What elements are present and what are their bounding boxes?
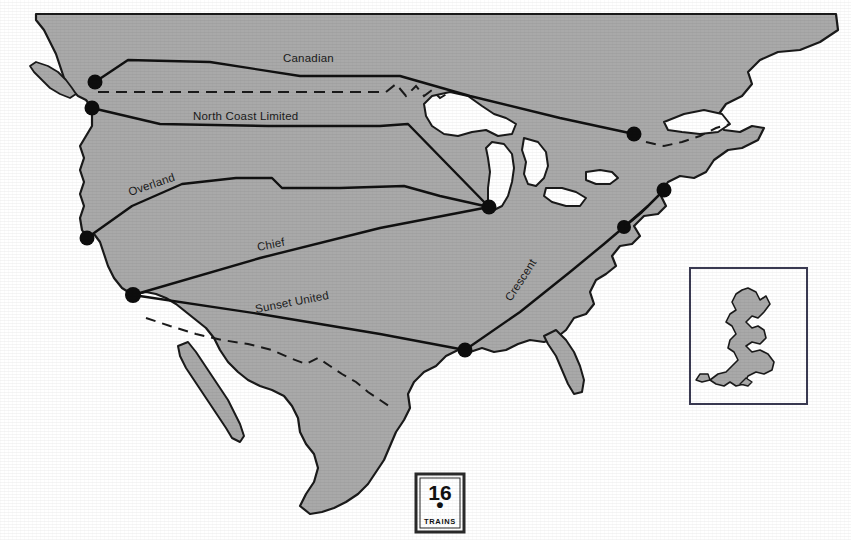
city-dot-washington[interactable]	[617, 220, 631, 234]
route-label-north-coast-limited: North Coast Limited	[193, 110, 298, 122]
city-dot-montreal[interactable]	[627, 127, 642, 142]
city-dot-chicago[interactable]	[482, 200, 497, 215]
figure-number-box: 16 • TRAINS	[416, 474, 464, 532]
city-dot-new-orleans[interactable]	[458, 343, 473, 358]
rail-route-map-figure: Canadian North Coast Limited Overland Ch…	[0, 0, 851, 540]
lake-ontario	[586, 170, 618, 184]
figure-separator-dot: •	[436, 493, 443, 516]
florida-peninsula	[544, 330, 584, 394]
landmass-group	[30, 14, 838, 514]
map-canvas: Canadian North Coast Limited Overland Ch…	[0, 0, 851, 540]
city-dot-vancouver[interactable]	[88, 75, 103, 90]
route-label-canadian: Canadian	[283, 52, 334, 64]
city-dot-los-angeles[interactable]	[125, 287, 141, 303]
city-dot-seattle[interactable]	[85, 101, 100, 116]
great-britain-scale-inset	[690, 268, 807, 404]
north-america-landmass	[36, 14, 838, 514]
figure-caption-text: TRAINS	[424, 517, 456, 526]
city-dot-san-francisco[interactable]	[80, 231, 95, 246]
city-dot-new-york[interactable]	[657, 183, 672, 198]
